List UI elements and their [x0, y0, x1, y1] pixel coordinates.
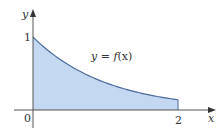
y-axis-arrow-icon: [30, 9, 36, 17]
y-tick-1-label: 1: [24, 31, 31, 44]
curve-label-arg: (x): [118, 50, 133, 63]
x-axis-label: x: [208, 112, 215, 125]
x-tick-2-label: 2: [175, 114, 182, 127]
curve-equation-label: y = f(x): [90, 50, 132, 63]
y-axis-label: y: [21, 8, 29, 21]
shaded-area-under-curve: [33, 37, 178, 110]
function-area-plot: y x 0 1 2 y = f(x): [0, 0, 223, 134]
origin-label: 0: [24, 112, 31, 125]
curve-label-prefix: y =: [90, 50, 113, 63]
